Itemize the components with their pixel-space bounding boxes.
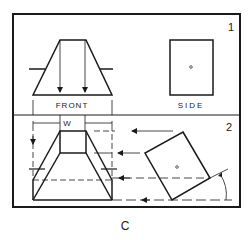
drawing-canvas: 1 FRONT SIDE 2 W	[0, 0, 251, 240]
panel-2: 2 W	[29, 115, 232, 200]
width-label: W	[63, 119, 71, 128]
center-point-icon	[190, 66, 193, 69]
figure-caption: C	[121, 219, 130, 233]
side-view-rectangle	[170, 40, 213, 95]
auxiliary-view-trapezoid	[29, 131, 117, 200]
projection-lines	[94, 131, 232, 200]
width-dimension	[33, 115, 112, 131]
panel-1: 1 FRONT SIDE	[29, 21, 234, 115]
front-label: FRONT	[56, 101, 89, 110]
side-label: SIDE	[178, 101, 205, 110]
rotated-side-view	[145, 132, 210, 200]
panel-1-number: 1	[228, 21, 234, 33]
angle-indicator	[210, 169, 228, 200]
center-point-icon	[176, 166, 179, 169]
panel-2-number: 2	[226, 121, 232, 133]
